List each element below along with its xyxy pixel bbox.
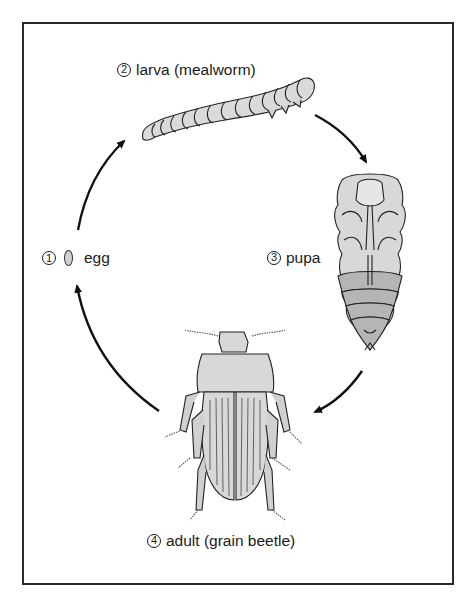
arrow-egg-to-larva-icon [78, 141, 124, 230]
arrow-pupa-to-adult-icon [315, 371, 362, 412]
adult-beetle-illustration-icon [165, 330, 302, 520]
circled-number-3: 3 [267, 251, 281, 265]
arrow-adult-to-egg-icon [77, 286, 159, 411]
arrow-larva-to-pupa-icon [315, 115, 366, 162]
life-cycle-illustration [0, 0, 468, 605]
stage-2-label: 2 larva (mealworm) [117, 62, 256, 78]
stage-3-label: 3 pupa [267, 250, 320, 266]
pupa-illustration-icon [335, 174, 406, 350]
circled-number-1: 1 [42, 251, 56, 265]
egg-label-text: egg [84, 250, 110, 266]
larva-label-text: larva (mealworm) [136, 62, 256, 78]
stage-4-label: 4 adult (grain beetle) [147, 533, 295, 549]
larva-illustration-icon [142, 78, 314, 140]
circled-number-4: 4 [147, 534, 161, 548]
adult-label-text: adult (grain beetle) [166, 533, 295, 549]
pupa-label-text: pupa [286, 250, 320, 266]
egg-icon [64, 250, 73, 266]
stage-1-label: 1 egg [42, 250, 110, 266]
circled-number-2: 2 [117, 63, 131, 77]
